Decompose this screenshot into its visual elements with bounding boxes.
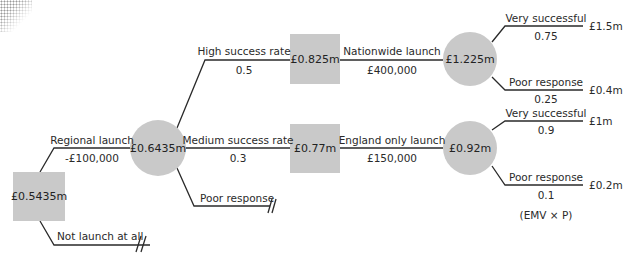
branch-cost-nationwide-launch: £400,000 <box>367 64 417 76</box>
outcome-prob-eng-very-successful: 0.9 <box>538 124 555 136</box>
branch-prob-high-success: 0.5 <box>236 64 253 76</box>
branch-label-nationwide-launch: Nationwide launch <box>343 45 440 57</box>
node-value: £0.77m <box>294 142 336 155</box>
outcome-prob-nw-poor-response: 0.25 <box>534 93 557 105</box>
node-value: £1.225m <box>445 53 494 66</box>
outcome-label-eng-very-successful: Very successful <box>505 107 586 119</box>
branch-label-not-launch: Not launch at all <box>57 230 143 242</box>
node-value: £0.6435m <box>130 142 186 155</box>
outcome-label-nw-very-successful: Very successful <box>505 12 586 24</box>
outcome-prob-nw-very-successful: 0.75 <box>534 30 557 42</box>
chance-node-regional: £0.6435m <box>130 120 186 176</box>
branch-cost-england-launch: £150,000 <box>367 152 417 164</box>
branch-cost-regional-launch: -£100,000 <box>65 152 119 164</box>
outcome-label-eng-poor-response: Poor response <box>509 171 583 183</box>
branch-label-regional-launch: Regional launch <box>50 134 134 146</box>
emv-annotation: (EMV × P) <box>520 209 573 221</box>
outcome-payoff-eng-poor-response: £0.2m <box>589 179 623 191</box>
outcome-prob-eng-poor-response: 0.1 <box>538 189 555 201</box>
node-value: £0.92m <box>449 142 491 155</box>
outcome-payoff-nw-poor-response: £0.4m <box>589 84 623 96</box>
branch-label-poor-response: Poor response <box>200 192 274 204</box>
decision-node-medium: £0.77m <box>290 124 340 173</box>
outcome-payoff-eng-very-successful: £1m <box>589 115 613 127</box>
outcome-payoff-nw-very-successful: £1.5m <box>589 20 623 32</box>
outcome-label-nw-poor-response: Poor response <box>509 76 583 88</box>
branch-label-medium-success: Medium success rate <box>182 134 293 146</box>
chance-node-england: £0.92m <box>443 121 497 175</box>
chance-node-nationwide: £1.225m <box>443 32 497 86</box>
branch-prob-medium-success: 0.3 <box>230 152 247 164</box>
decision-node-root: £0.5435m <box>13 172 65 221</box>
node-value: £0.5435m <box>11 190 67 203</box>
branch-label-england-launch: England only launch <box>339 134 446 146</box>
node-value: £0.825m <box>290 53 339 66</box>
branch-label-high-success: High success rate <box>197 45 290 57</box>
decision-node-high: £0.825m <box>290 34 340 84</box>
